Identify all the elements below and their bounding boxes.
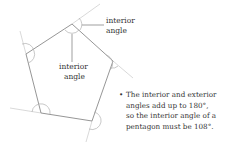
top-right-label: interior angle xyxy=(106,16,135,36)
bullet-icon: • xyxy=(119,90,123,101)
note-line: so the interior angle of a xyxy=(126,111,226,122)
leader-lines xyxy=(72,25,104,62)
note-line: pentagon must be 108°. xyxy=(126,122,226,133)
note-line: angles add up to 180°, xyxy=(126,101,226,112)
center-label: interior angle xyxy=(59,62,88,82)
label-line: interior xyxy=(59,62,88,72)
explanation-note: • The interior and exterior angles add u… xyxy=(126,90,226,132)
label-line: interior xyxy=(106,16,135,26)
note-line: The interior and exterior xyxy=(126,90,226,101)
label-line: angle xyxy=(59,72,88,82)
label-line: angle xyxy=(106,26,135,36)
